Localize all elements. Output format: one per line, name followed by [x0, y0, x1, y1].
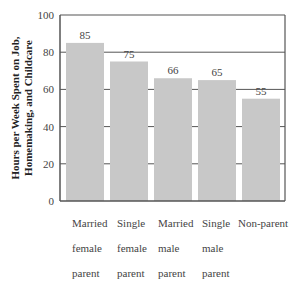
- y-tick-label: 20: [43, 158, 55, 170]
- x-tick-label-line: Single: [117, 217, 163, 230]
- data-label: 55: [256, 85, 268, 97]
- x-tick-label-line: Non-parent: [238, 217, 294, 230]
- data-label: 65: [212, 66, 224, 78]
- x-tick-label-line: male: [202, 242, 248, 255]
- bar-3: [154, 78, 192, 201]
- data-label: 75: [124, 48, 136, 60]
- x-tick-label-line: Married: [72, 217, 118, 230]
- x-tick-label-non-parent: Non-parent: [238, 204, 294, 242]
- x-tick-label-married-female-parent: Married female parent: [72, 204, 118, 283]
- x-tick-label-line: female: [72, 242, 118, 255]
- x-tick-label-line: male: [158, 242, 204, 255]
- bar-4: [198, 80, 236, 201]
- x-tick-label-line: Married: [158, 217, 204, 230]
- x-tick-label-line: parent: [202, 267, 248, 280]
- y-tick-label: 60: [43, 83, 55, 95]
- data-label: 66: [168, 64, 180, 76]
- bar-2: [110, 62, 148, 202]
- data-label: 85: [80, 29, 92, 41]
- bar-5: [242, 99, 280, 201]
- y-tick-label: 40: [43, 121, 55, 133]
- y-tick-label: 80: [43, 46, 55, 58]
- y-axis-label: Hours per Week Spent on Job, Homemaking,…: [2, 15, 42, 201]
- x-tick-label-line: parent: [72, 267, 118, 280]
- x-tick-label-married-male-parent: Married male parent: [158, 204, 204, 283]
- x-tick-label-line: female: [117, 242, 163, 255]
- x-tick-label-single-female-parent: Single female parent: [117, 204, 163, 283]
- bar-1: [66, 43, 104, 201]
- x-tick-label-line: parent: [117, 267, 163, 280]
- y-axis-label-line-1: Hours per Week Spent on Job,: [9, 36, 22, 179]
- x-tick-label-line: parent: [158, 267, 204, 280]
- y-tick-label: 0: [49, 195, 55, 207]
- y-axis-label-line-2: Homemaking, and Childcare: [22, 36, 35, 179]
